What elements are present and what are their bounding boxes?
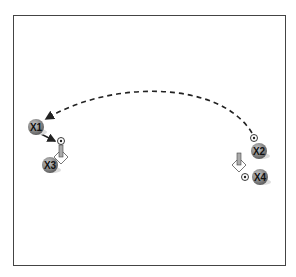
drill-diagram: X1 X3 X2 X4: [0, 0, 296, 277]
pass-arc: [46, 91, 252, 133]
dribble-arrow: [41, 134, 55, 141]
svg-text:X4: X4: [254, 172, 267, 183]
svg-text:X1: X1: [30, 122, 43, 133]
svg-text:X3: X3: [44, 160, 57, 171]
player-x2: X2: [251, 143, 270, 159]
cone-icon: [232, 153, 246, 172]
ball-icon: [58, 135, 258, 181]
player-x4: X4: [252, 169, 271, 185]
svg-text:X2: X2: [253, 146, 266, 157]
player-x1: X1: [28, 119, 47, 135]
